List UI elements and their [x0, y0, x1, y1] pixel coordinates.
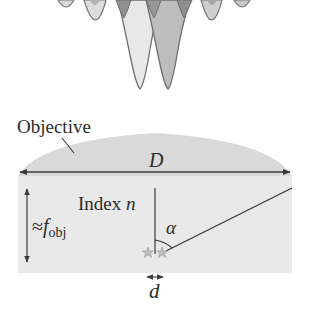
side-lobe-far-left	[58, 0, 74, 7]
index-symbol: n	[126, 193, 136, 214]
approx-symbol: ≈	[32, 215, 43, 237]
objective-label: Objective	[17, 116, 91, 137]
angle-label: α	[166, 217, 177, 238]
separation-label: d	[149, 279, 160, 303]
focal-subscript: obj	[49, 225, 67, 240]
index-label: Index n	[78, 193, 136, 214]
diameter-label: D	[148, 149, 164, 171]
optics-diagram: Objective D ≈fobj Index n α d	[0, 0, 310, 309]
index-prefix: Index	[78, 193, 126, 214]
psf-group	[58, 0, 250, 89]
side-lobe-far-right	[234, 0, 250, 7]
